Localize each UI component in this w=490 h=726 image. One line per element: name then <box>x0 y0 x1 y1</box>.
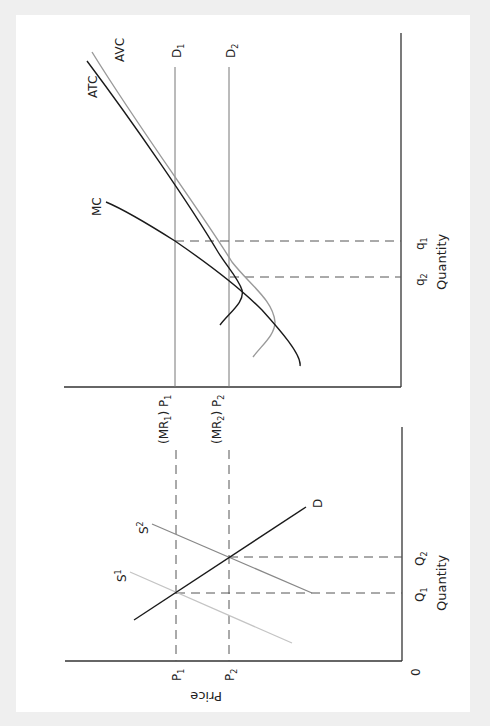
s2-label: S2 <box>136 521 151 534</box>
price-axis-label: Price <box>190 689 222 704</box>
svg-text:D1: D1 <box>170 44 186 58</box>
svg-text:q2: q2 <box>413 273 429 286</box>
atc-label: ATC <box>86 76 100 98</box>
d2-label: D2 <box>224 44 240 58</box>
svg-text:S1: S1 <box>114 569 129 582</box>
svg-text:q1: q1 <box>413 237 429 250</box>
P2-tick-label: P2 <box>223 669 239 681</box>
q1-tick-label: q1 <box>413 237 429 250</box>
avc-label: AVC <box>113 38 127 62</box>
market-demand-curve <box>134 507 306 620</box>
q2-tick-label: q2 <box>413 273 429 286</box>
origin-label: 0 <box>409 668 423 676</box>
Q1-tick-label: Q1 <box>413 587 429 602</box>
mr1-p1-tick-label: (MR1) P1 <box>157 395 173 444</box>
Q2-tick-label: Q2 <box>413 551 429 566</box>
svg-text:(MR2) P2: (MR2) P2 <box>210 395 226 444</box>
avc-curve <box>92 52 275 357</box>
mc-label: MC <box>90 197 104 216</box>
svg-text:Q2: Q2 <box>413 551 429 566</box>
svg-text:Q1: Q1 <box>413 587 429 602</box>
svg-text:(MR1) P1: (MR1) P1 <box>157 395 173 444</box>
P1-tick-label: P1 <box>170 669 186 681</box>
perfect-competition-diagram: AVC ATC MC D1 D2 q1 q2 Quantity (MR1) P1… <box>0 0 490 726</box>
market-demand-label: D <box>311 499 325 508</box>
svg-text:D2: D2 <box>224 44 240 58</box>
market-quantity-axis-label: Quantity <box>434 555 449 611</box>
mr2-p2-tick-label: (MR2) P2 <box>210 395 226 444</box>
svg-text:S2: S2 <box>136 521 151 534</box>
market-panel: D S1 S2 Q1 Q2 Quantity P1 P2 0 Price <box>65 427 449 704</box>
firm-quantity-axis-label: Quantity <box>434 234 449 290</box>
svg-text:P1: P1 <box>170 669 186 681</box>
d1-label: D1 <box>170 44 186 58</box>
atc-curve <box>87 61 242 325</box>
s1-label: S1 <box>114 569 129 582</box>
svg-text:P2: P2 <box>223 669 239 681</box>
firm-panel: AVC ATC MC D1 D2 q1 q2 Quantity (MR1) P1… <box>64 33 449 444</box>
